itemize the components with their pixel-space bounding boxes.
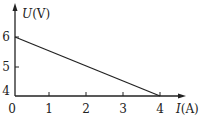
chart: 0 1 2 3 4 6 5 4 U(V) I(A)	[0, 0, 207, 126]
x-tick-label: 2	[82, 102, 90, 116]
data-line	[15, 37, 160, 96]
x-axis-arrow-icon	[178, 94, 186, 99]
x-tick-label: 4	[156, 102, 164, 116]
x-tick-label: 1	[45, 102, 53, 116]
x-tick-label: 3	[119, 102, 127, 116]
y-tick-label: 6	[2, 30, 10, 44]
x-tick-label: 0	[8, 102, 16, 116]
y-axis-arrow-icon	[13, 3, 18, 11]
x-axis-label: I(A)	[175, 102, 199, 116]
y-tick-label: 5	[2, 60, 10, 74]
y-tick-label: 4	[2, 84, 10, 98]
y-axis-label: U(V)	[22, 7, 50, 21]
